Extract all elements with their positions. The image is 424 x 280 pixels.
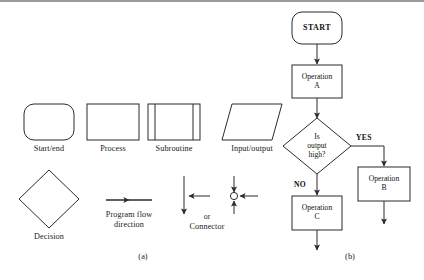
legend-shape-decision xyxy=(19,170,79,228)
legend-label-connector: Connector xyxy=(177,222,237,232)
legend-shape-connector-plain xyxy=(184,176,210,214)
flow-label-operation-a: Operation A xyxy=(292,72,342,90)
legend-shape-connector-dot xyxy=(230,176,258,214)
legend-label-flow-direction: Program flow direction xyxy=(94,210,164,229)
legend-shape-process xyxy=(87,104,139,140)
legend-label-input-output: Input/output xyxy=(212,144,292,154)
legend-shape-start-end xyxy=(24,104,74,140)
legend-label-subroutine: Subroutine xyxy=(139,144,209,154)
flow-branch-label-no: NO xyxy=(294,180,306,189)
legend-shape-subroutine xyxy=(148,104,200,140)
legend-label-process: Process xyxy=(78,144,148,154)
panel-a-caption: (a) xyxy=(123,252,163,261)
flowchart-figure: Start/end Process Subroutine Input/outpu… xyxy=(0,0,424,280)
legend-shape-input-output xyxy=(222,104,282,140)
flow-edge-yes xyxy=(351,146,384,166)
legend-label-start-end: Start/end xyxy=(14,144,84,154)
panel-b-caption: (b) xyxy=(330,252,370,261)
flow-label-decision: Is output high? xyxy=(292,132,342,159)
legend-label-decision: Decision xyxy=(14,232,84,242)
legend-label-connector-or: or xyxy=(184,212,230,221)
flow-label-operation-c: Operation C xyxy=(292,203,342,221)
flow-label-start: START xyxy=(292,23,342,32)
flow-label-operation-b: Operation B xyxy=(358,174,410,192)
flow-branch-label-yes: YES xyxy=(356,133,372,142)
